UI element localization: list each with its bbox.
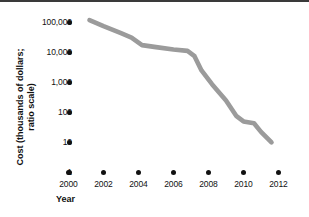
y-tick-label-100000: 100,000: [14, 18, 72, 27]
x-tick-label-2006: 2006: [157, 180, 191, 189]
x-tick-dot-2010: [241, 170, 246, 175]
y-tick-100: 100: [6, 107, 72, 117]
x-tick-dot-2004: [136, 170, 141, 175]
y-tick-label-1000: 1,000: [14, 78, 72, 87]
x-tick-label-2012: 2012: [262, 180, 296, 189]
y-tick-dot: [67, 140, 72, 145]
x-tick-dot-2012: [276, 170, 281, 175]
data-series-line: [90, 20, 272, 142]
y-tick-dot: [67, 50, 72, 55]
y-tick-label-100: 100: [14, 108, 72, 117]
y-tick-100000: 100,000: [6, 17, 72, 27]
y-tick-1: 1: [6, 167, 72, 177]
x-tick-label-2002: 2002: [87, 180, 121, 189]
y-tick-1000: 1,000: [6, 77, 72, 87]
x-tick-label-2010: 2010: [227, 180, 261, 189]
y-tick-10: 10: [6, 137, 72, 147]
x-tick-dot-2002: [101, 170, 106, 175]
chart-figure: Cost (thousands of dollars; ratio scale)…: [0, 0, 309, 217]
y-tick-label-1: 1: [14, 168, 72, 177]
x-tick-label-2000: 2000: [52, 180, 86, 189]
y-tick-dot: [67, 20, 72, 25]
x-tick-dot-2006: [171, 170, 176, 175]
x-tick-dot-2000: [66, 170, 71, 175]
y-tick-label-10000: 10,000: [14, 48, 72, 57]
x-tick-dot-2008: [206, 170, 211, 175]
y-tick-dot: [67, 80, 72, 85]
top-divider: [0, 0, 309, 2]
x-axis-title: Year: [56, 194, 75, 204]
y-tick-label-10: 10: [14, 138, 72, 147]
y-tick-dot: [67, 110, 72, 115]
x-tick-label-2004: 2004: [122, 180, 156, 189]
y-tick-10000: 10,000: [6, 47, 72, 57]
x-tick-label-2008: 2008: [192, 180, 226, 189]
